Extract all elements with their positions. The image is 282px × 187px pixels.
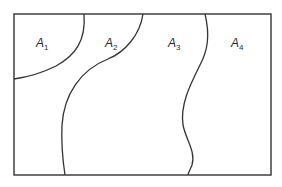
boundary-curve-1 xyxy=(14,14,84,79)
boundary-curve-3 xyxy=(182,14,207,175)
region-label-a1: A1 xyxy=(36,37,48,52)
region-label-a4: A4 xyxy=(231,37,243,52)
region-label-a2: A2 xyxy=(105,37,117,52)
boundary-curve-2 xyxy=(62,14,143,175)
region-label-a3: A3 xyxy=(168,37,180,52)
region-partition-diagram xyxy=(0,0,282,187)
